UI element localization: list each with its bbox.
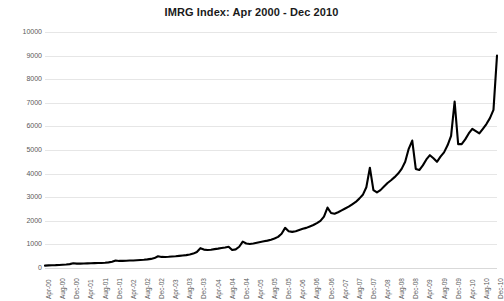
line-series (45, 32, 497, 268)
x-axis-tick-label: Aug-04 (229, 270, 236, 299)
y-axis-tick-label: 3000 (0, 193, 42, 201)
x-axis-tick-label: Dec-05 (285, 270, 292, 299)
x-axis-tick-label: Apr-09 (426, 270, 433, 299)
x-axis-tick-label: Aug-06 (313, 270, 320, 299)
x-axis-tick-label: Dec-03 (200, 270, 207, 299)
y-axis-tick-label: 1000 (0, 240, 42, 248)
plot-area (45, 32, 497, 268)
y-axis-tick-labels: 0100020003000400050006000700080009000100… (0, 32, 42, 268)
x-axis-tick-label: Apr-08 (384, 270, 391, 299)
y-axis-tick-label: 6000 (0, 122, 42, 130)
x-axis-tick-label: Aug-07 (356, 270, 363, 299)
x-axis-tick-label: Aug-08 (398, 270, 405, 299)
y-axis-tick-label: 9000 (0, 52, 42, 60)
x-axis-tick-labels: Apr-00Aug-00Dec-00Apr-01Aug-01Dec-01Apr-… (45, 270, 497, 301)
x-axis-tick-label: Apr-05 (257, 270, 264, 299)
x-axis-tick-label: Dec-10 (497, 270, 504, 299)
y-axis-tick-label: 2000 (0, 217, 42, 225)
x-axis-tick-label: Aug-05 (271, 270, 278, 299)
x-axis-tick-label: Dec-08 (412, 270, 419, 299)
x-axis-tick-label: Apr-06 (299, 270, 306, 299)
x-axis-tick-label: Dec-06 (328, 270, 335, 299)
y-axis-tick-label: 7000 (0, 99, 42, 107)
y-axis-tick-label: 4000 (0, 170, 42, 178)
x-axis-tick-label: Aug-00 (59, 270, 66, 299)
y-axis-tick-label: 10000 (0, 28, 42, 36)
x-axis-tick-label: Apr-03 (172, 270, 179, 299)
x-axis-tick-label: Apr-07 (342, 270, 349, 299)
gridline (45, 268, 497, 269)
x-axis-tick-label: Dec-09 (455, 270, 462, 299)
x-axis-tick-label: Dec-00 (73, 270, 80, 299)
x-axis-tick-label: Apr-00 (45, 270, 52, 299)
chart-title: IMRG Index: Apr 2000 - Dec 2010 (0, 6, 503, 18)
x-axis-tick-label: Dec-02 (158, 270, 165, 299)
x-axis-tick-label: Aug-01 (102, 270, 109, 299)
x-axis-tick-label: Aug-09 (441, 270, 448, 299)
x-axis-tick-label: Dec-01 (116, 270, 123, 299)
y-axis-tick-label: 0 (0, 264, 42, 272)
y-axis-tick-label: 8000 (0, 75, 42, 83)
x-axis-tick-label: Apr-10 (469, 270, 476, 299)
x-axis-tick-label: Dec-07 (370, 270, 377, 299)
x-axis-tick-label: Apr-01 (87, 270, 94, 299)
x-axis-tick-label: Dec-04 (243, 270, 250, 299)
x-axis-tick-label: Apr-02 (130, 270, 137, 299)
y-axis-tick-label: 5000 (0, 146, 42, 154)
x-axis-tick-label: Aug-03 (186, 270, 193, 299)
x-axis-tick-label: Apr-04 (215, 270, 222, 299)
x-axis-tick-label: Aug-02 (144, 270, 151, 299)
x-axis-tick-label: Aug-10 (483, 270, 490, 299)
